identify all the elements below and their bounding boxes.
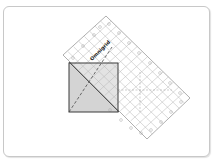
- ruler-square-diagram: Omnigrid: [0, 0, 214, 161]
